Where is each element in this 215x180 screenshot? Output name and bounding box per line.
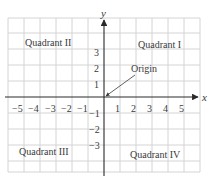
- origin-label: Origin: [131, 63, 157, 74]
- y-tick-label: −1: [89, 108, 100, 119]
- x-tick-label: 2: [131, 103, 136, 114]
- x-tick-label: 5: [179, 103, 184, 114]
- quadrant-2-label: Quadrant II: [25, 37, 71, 48]
- y-tick-label: 1: [94, 79, 99, 90]
- x-tick-label: 3: [147, 103, 152, 114]
- y-tick-label: 3: [94, 47, 99, 58]
- x-tick-label: −1: [77, 103, 88, 114]
- quadrant-1-label: Quadrant I: [138, 39, 181, 50]
- x-tick-label: 1: [115, 103, 120, 114]
- y-tick-labels: 3 2 1 −1 −2 −3: [89, 47, 100, 151]
- y-tick-label: −2: [89, 124, 100, 135]
- x-tick-label: −2: [61, 103, 72, 114]
- x-tick-label: −4: [28, 103, 39, 114]
- quadrant-4-label: Quadrant IV: [130, 149, 181, 160]
- x-tick-label: 4: [163, 103, 168, 114]
- quadrant-3-label: Quadrant III: [19, 146, 69, 157]
- x-tick-label: −3: [45, 103, 56, 114]
- y-tick-label: 2: [94, 63, 99, 74]
- coordinate-plane-diagram: y x −5 −4 −3 −2 −1 1 2 3 4 5 3 2 1 −1 −2…: [0, 0, 215, 180]
- x-tick-label: −5: [12, 103, 23, 114]
- y-axis-label: y: [100, 7, 106, 19]
- y-tick-label: −3: [89, 140, 100, 151]
- x-axis-label: x: [201, 91, 207, 103]
